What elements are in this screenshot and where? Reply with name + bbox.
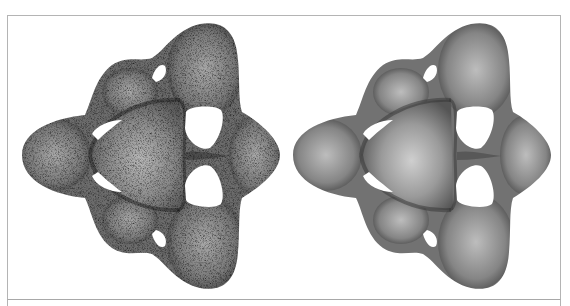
figure-canvas xyxy=(0,0,570,306)
stippled-surface-render xyxy=(0,0,290,306)
shaded-surface-render xyxy=(271,0,561,306)
